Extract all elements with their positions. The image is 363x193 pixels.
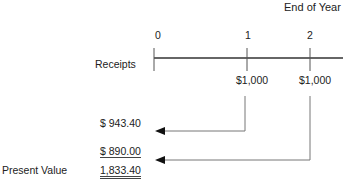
arrowhead-icon bbox=[155, 156, 165, 164]
discount-line-year2 bbox=[165, 96, 310, 160]
discount-line-year1 bbox=[165, 96, 245, 131]
arrowhead-icon bbox=[155, 127, 165, 135]
present-value-total: 1,833.40 bbox=[100, 164, 141, 179]
period-1: 1 bbox=[245, 29, 251, 41]
present-value-label: Present Value bbox=[2, 164, 67, 176]
period-0: 0 bbox=[155, 29, 161, 41]
period-2: 2 bbox=[307, 29, 313, 41]
receipt-year2: $1,000 bbox=[299, 74, 331, 86]
receipt-year1: $1,000 bbox=[236, 74, 268, 86]
header-label: End of Year bbox=[284, 1, 341, 13]
receipts-label: Receipts bbox=[95, 58, 136, 70]
pv-year2: $ 890.00 bbox=[100, 145, 141, 158]
pv-year1: $ 943.40 bbox=[100, 117, 141, 129]
